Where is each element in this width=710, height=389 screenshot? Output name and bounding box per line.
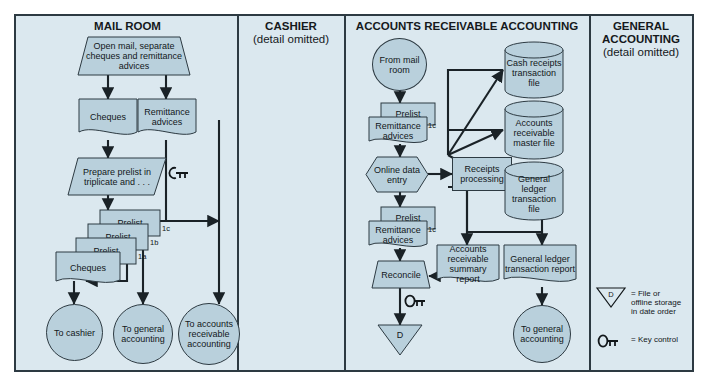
terminator-ar-to-general-accounting: To general accounting (513, 305, 571, 363)
terminator-from-mail-room: From mail room (372, 38, 427, 91)
column-subtitle-cashier: (detail omitted) (240, 33, 342, 46)
document-cheques-label: Cheques (79, 99, 137, 140)
legend-key-control-text: = Key control (631, 335, 683, 344)
process-online-data-entry: Online data entry (366, 157, 428, 192)
datastore-gl-transaction-file-label: General ledger transaction file (505, 162, 563, 220)
legend-file-symbol-icon: D (597, 288, 625, 307)
flowchart-canvas: MAIL ROOM CASHIER (detail omitted) ACCOU… (0, 0, 710, 389)
document-ar-remittance-top: Remittance advices (369, 117, 427, 147)
tag-prelist-1b: 1b (150, 238, 158, 247)
document-cheques-batch: Cheques (56, 252, 120, 288)
document-gl-transaction-report: General ledger transaction report (504, 245, 576, 287)
column-subtitle-general-accounting: (detail omitted) (593, 46, 689, 59)
datastore-cash-receipts-file-label: Cash receipts transaction file (505, 42, 563, 98)
datastore-ar-master-file-label: Accounts receivable master file (505, 101, 563, 159)
document-ar-summary-report-label: Accounts receivable summary report (437, 245, 499, 287)
document-cheques: Cheques (79, 99, 137, 140)
terminator-from-mail-room-label: From mail room (373, 55, 426, 75)
datastore-gl-transaction-file: General ledger transaction file (505, 162, 563, 220)
process-prepare-prelist: Prepare prelist in triplicate and . . . (68, 158, 166, 195)
tag-ar-bottom: 1c (428, 225, 436, 234)
terminator-to-accounts-receivable: To accounts receivable accounting (178, 303, 240, 365)
process-prepare-prelist-label: Prepare prelist in triplicate and . . . (68, 158, 166, 195)
legend-file-symbol-label: D (597, 290, 625, 299)
process-online-data-entry-label: Online data entry (366, 157, 428, 192)
terminator-to-cashier-label: To cashier (54, 328, 95, 338)
process-reconcile-label: Reconcile (372, 261, 430, 288)
document-ar-summary-report: Accounts receivable summary report (437, 245, 499, 287)
process-receipts-processing-label: Receipts processing (453, 164, 511, 184)
column-header-accounts-receivable: ACCOUNTS RECEIVABLE ACCOUNTING (347, 20, 587, 33)
tag-prelist-1c: 1c (162, 224, 170, 233)
terminator-to-cashier: To cashier (46, 304, 103, 361)
datastore-cash-receipts-file: Cash receipts transaction file (505, 42, 563, 98)
process-reconcile: Reconcile (372, 261, 430, 288)
terminator-to-general-accounting-label: To general accounting (114, 324, 172, 344)
tag-ar-top: 1c (428, 121, 436, 130)
terminator-to-accounts-receivable-label: To accounts receivable accounting (179, 319, 239, 349)
column-title-mail-room: MAIL ROOM (20, 20, 235, 33)
key-control-icon-prepare-prelist (167, 166, 191, 180)
document-ar-remittance-bottom-label: Remittance advices (369, 221, 427, 251)
tag-prelist-1a: 1a (138, 252, 146, 261)
process-open-mail-label: Open mail, separate cheques and remittan… (78, 37, 190, 75)
offline-storage-d-label: D (378, 330, 422, 340)
column-header-general-accounting: GENERAL ACCOUNTING (detail omitted) (593, 20, 689, 59)
column-title-general-accounting: GENERAL ACCOUNTING (593, 20, 689, 46)
terminator-to-general-accounting: To general accounting (113, 304, 173, 364)
divider-cashier-ar (344, 14, 346, 372)
column-header-cashier: CASHIER (detail omitted) (240, 20, 342, 46)
document-cheques-batch-label: Cheques (56, 252, 120, 288)
key-control-icon-reconcile (403, 294, 427, 308)
legend-file-text: = File or offline storage in date order (631, 289, 683, 316)
column-title-accounts-receivable: ACCOUNTS RECEIVABLE ACCOUNTING (347, 20, 587, 33)
document-ar-remittance-top-label: Remittance advices (369, 117, 427, 147)
process-receipts-processing: Receipts processing (452, 157, 512, 191)
divider-ar-general (589, 14, 591, 372)
terminator-ar-to-general-accounting-label: To general accounting (514, 324, 570, 344)
process-open-mail: Open mail, separate cheques and remittan… (78, 37, 190, 75)
column-title-cashier: CASHIER (240, 20, 342, 33)
document-gl-transaction-report-label: General ledger transaction report (504, 245, 576, 287)
legend-key-control-icon (597, 334, 623, 348)
column-header-mail-room: MAIL ROOM (20, 20, 235, 33)
document-remittance-advices-label: Remittance advices (138, 99, 196, 140)
document-remittance-advices: Remittance advices (138, 99, 196, 140)
document-ar-remittance-bottom: Remittance advices (369, 221, 427, 251)
datastore-ar-master-file: Accounts receivable master file (505, 101, 563, 159)
offline-storage-d: D (378, 325, 422, 355)
